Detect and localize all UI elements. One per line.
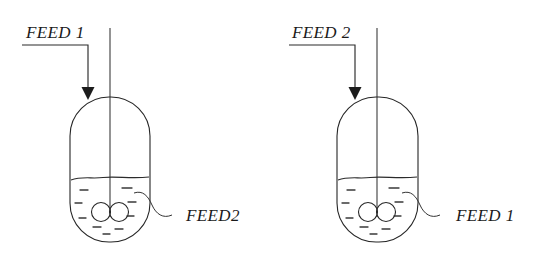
left-impeller-blade-b (110, 203, 129, 222)
right-liquid-dashes (342, 188, 403, 234)
left-liquid-label: FEED2 (185, 206, 240, 225)
left-liquid-dashes (75, 188, 136, 234)
right-impeller-blade-a (359, 203, 378, 222)
right-feed-arrow-icon (349, 87, 362, 100)
left-inlet-label: FEED 1 (25, 23, 85, 42)
right-inlet-label: FEED 2 (291, 23, 351, 42)
reactor-diagram: FEED 1 FEED2 (0, 0, 551, 265)
right-reactor-group: FEED 2 FEED 1 (289, 23, 515, 242)
left-feed-pipe (22, 45, 88, 88)
left-reactor-group: FEED 1 FEED2 (22, 23, 240, 242)
left-label-leader (134, 192, 172, 216)
right-feed-pipe (289, 45, 355, 88)
right-label-leader (402, 192, 440, 216)
left-impeller-blade-a (92, 203, 111, 222)
right-impeller-blade-b (377, 203, 396, 222)
left-feed-arrow-icon (82, 87, 95, 100)
right-liquid-label: FEED 1 (455, 206, 515, 225)
diagram-canvas: FEED 1 FEED2 (0, 0, 551, 265)
